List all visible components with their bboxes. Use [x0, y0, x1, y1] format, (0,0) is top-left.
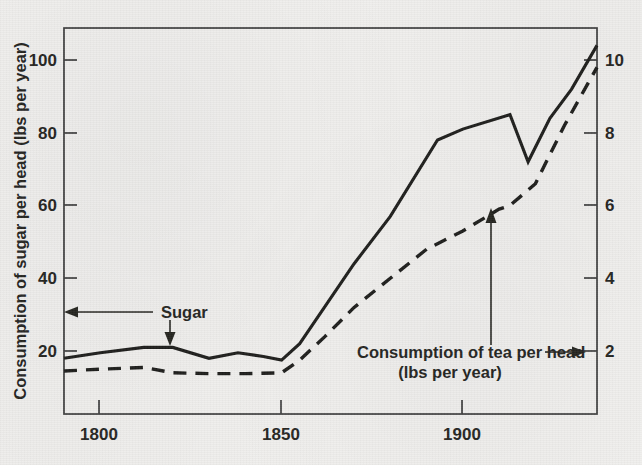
right-axis-tick-labels: 10 8 6 4 2: [605, 51, 624, 361]
y2-tick-label-10: 10: [605, 51, 624, 70]
y-tick-label-40: 40: [38, 269, 57, 288]
left-axis-tick-labels: 100 80 60 40 20: [29, 51, 57, 361]
x-axis-tick-labels: 1800 1850 1900: [80, 425, 481, 444]
chart-figure: 100 80 60 40 20 Consumption of sugar per…: [0, 0, 642, 465]
tea-annotation: Consumption of tea per head (lbs per yea…: [357, 208, 586, 381]
series-line-sugar: [64, 45, 597, 360]
y2-tick-label-8: 8: [605, 124, 614, 143]
right-axis-ticks: [584, 60, 597, 351]
y-tick-label-100: 100: [29, 51, 57, 70]
dual-axis-line-chart: 100 80 60 40 20 Consumption of sugar per…: [0, 0, 642, 465]
tea-annotation-label-line2: (lbs per year): [398, 363, 502, 381]
y2-tick-label-2: 2: [605, 342, 614, 361]
y-axis-title: Consumption of sugar per head (lbs per y…: [11, 42, 29, 400]
y-tick-label-80: 80: [38, 124, 57, 143]
y2-tick-label-4: 4: [605, 269, 615, 288]
x-tick-label-1800: 1800: [80, 425, 118, 444]
x-tick-label-1850: 1850: [262, 425, 300, 444]
y-tick-label-20: 20: [38, 342, 57, 361]
x-tick-label-1900: 1900: [443, 425, 481, 444]
sugar-left-arrowhead-icon: [64, 307, 78, 318]
tea-annotation-label-line1: Consumption of tea per head: [357, 343, 585, 361]
sugar-down-arrowhead-icon: [165, 332, 176, 346]
x-axis-ticks: [99, 400, 462, 414]
sugar-annotation-label: Sugar: [161, 303, 208, 321]
left-axis-ticks: [64, 60, 77, 351]
series-line-tea: [64, 67, 597, 373]
sugar-annotation: Sugar: [64, 303, 208, 346]
y-tick-label-60: 60: [38, 196, 57, 215]
y2-tick-label-6: 6: [605, 196, 614, 215]
